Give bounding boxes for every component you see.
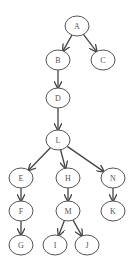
node-G: G — [9, 235, 33, 255]
nodes-layer: ABCDLEHNFMKGIJ — [9, 16, 125, 255]
node-label: C — [100, 56, 105, 65]
arrow-line — [59, 221, 65, 236]
tree-diagram: ABCDLEHNFMKGIJ — [0, 0, 134, 266]
arrow-line — [83, 34, 96, 51]
node-C: C — [91, 50, 115, 70]
arrow-line — [63, 35, 72, 51]
arrow-line — [61, 150, 66, 168]
node-label: F — [19, 207, 24, 216]
node-label: I — [54, 241, 57, 250]
node-A: A — [65, 16, 89, 36]
node-label: B — [55, 56, 60, 65]
node-D: D — [46, 88, 70, 108]
arrow-line — [67, 146, 104, 171]
node-label: H — [65, 174, 71, 183]
node-label: J — [85, 241, 88, 250]
node-label: G — [18, 241, 24, 250]
node-M: M — [56, 201, 80, 221]
arrow-line — [73, 220, 82, 236]
node-L: L — [46, 130, 70, 150]
edge-M-J — [73, 220, 82, 236]
node-label: L — [56, 136, 61, 145]
node-J: J — [75, 235, 99, 255]
edge-L-H — [61, 150, 66, 168]
node-N: N — [101, 168, 125, 188]
edge-A-C — [83, 34, 96, 51]
node-B: B — [46, 50, 70, 70]
edge-M-I — [59, 221, 65, 236]
node-F: F — [9, 201, 33, 221]
node-label: N — [110, 174, 116, 183]
node-label: E — [19, 174, 24, 183]
edge-A-B — [63, 35, 72, 51]
edge-L-E — [29, 148, 51, 170]
node-label: D — [55, 94, 61, 103]
edge-L-N — [67, 146, 104, 171]
node-E: E — [9, 168, 33, 188]
node-label: K — [110, 207, 116, 216]
arrow-line — [29, 148, 51, 170]
node-H: H — [56, 168, 80, 188]
node-label: M — [64, 207, 71, 216]
node-I: I — [43, 235, 67, 255]
node-label: A — [74, 22, 80, 31]
node-K: K — [101, 201, 125, 221]
